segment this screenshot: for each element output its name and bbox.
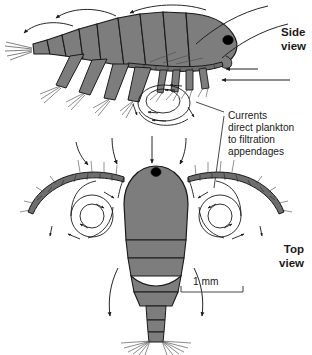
scale-bar-label: 1 mm [193, 276, 218, 288]
side-abdomen [33, 24, 101, 62]
top-view-organism [20, 136, 292, 355]
illustration-canvas [0, 0, 312, 355]
currents-annotation-label: Currents direct plankton to filtration a… [228, 110, 294, 158]
top-tail-fan [121, 341, 191, 355]
figure-container: Side view Currents direct plankton to fi… [0, 0, 312, 355]
top-vortex-left [71, 178, 124, 238]
top-abdomen-segments [126, 240, 186, 306]
side-tail-bristles [5, 42, 32, 60]
top-eye [151, 168, 161, 177]
side-view-label: Side view [281, 26, 306, 53]
side-inflow-arrows [222, 69, 290, 80]
top-inflow-arrows [76, 136, 186, 165]
top-cephalothorax [124, 166, 188, 240]
side-current-vortex [138, 85, 190, 125]
top-telson [146, 306, 166, 342]
side-thorax [97, 12, 190, 69]
top-view-label: Top view [279, 243, 304, 270]
side-eye [223, 35, 233, 44]
side-view-organism [5, 5, 290, 125]
